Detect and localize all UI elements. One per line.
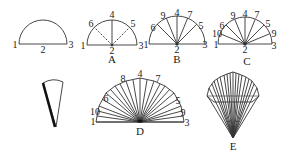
b-label-5: 5 (199, 21, 204, 31)
start-label-3: 3 (69, 40, 74, 50)
b-label-7: 7 (188, 10, 193, 20)
caption-e: E (230, 141, 237, 151)
a-label-6: 6 (89, 19, 94, 29)
figure-cone (43, 80, 63, 127)
d-label-10: 10 (90, 107, 100, 117)
d-label-9: 9 (181, 108, 186, 118)
d-label-7: 7 (156, 74, 161, 84)
caption-c: C (243, 56, 250, 66)
d-label-3: 3 (185, 118, 190, 128)
caption-b: B (173, 54, 180, 64)
start-label-2: 2 (41, 45, 46, 55)
a-label-5: 5 (131, 19, 136, 29)
c-label-2: 2 (243, 45, 248, 55)
c-label-9-left: 9 (231, 11, 236, 21)
d-label-4: 4 (138, 69, 143, 79)
c-label-5: 5 (266, 19, 271, 29)
c-label-9-right: 9 (272, 29, 277, 39)
b-label-6: 6 (151, 23, 156, 33)
c-label-1: 1 (214, 40, 219, 50)
c-label-10: 10 (212, 29, 222, 39)
d-label-8: 8 (121, 74, 126, 84)
a-label-4: 4 (110, 10, 115, 20)
caption-a: A (108, 54, 116, 64)
diagram-canvas (0, 0, 290, 153)
d-label-1: 1 (91, 117, 96, 127)
b-label-3: 3 (203, 40, 208, 50)
start-label-1: 1 (13, 40, 18, 50)
b-label-9: 9 (161, 11, 166, 21)
figure-c (218, 17, 272, 45)
figure-b (149, 16, 205, 45)
b-label-1: 1 (144, 40, 149, 50)
d-label-5: 5 (176, 96, 181, 106)
c-label-7: 7 (255, 10, 260, 20)
folding-diagram: 1 2 3 1 2 3 4 5 6 A 1 2 3 4 5 6 7 9 B 1 … (0, 0, 290, 153)
d-label-6: 6 (104, 94, 109, 104)
figure-start-semicircle (19, 20, 67, 44)
figure-e (207, 72, 259, 138)
figure-a (87, 20, 137, 46)
caption-d: D (136, 126, 144, 136)
a-label-1: 1 (81, 41, 86, 51)
figure-d (96, 78, 184, 123)
b-label-4: 4 (175, 8, 180, 18)
c-label-3: 3 (272, 41, 277, 51)
c-label-4: 4 (243, 9, 248, 19)
